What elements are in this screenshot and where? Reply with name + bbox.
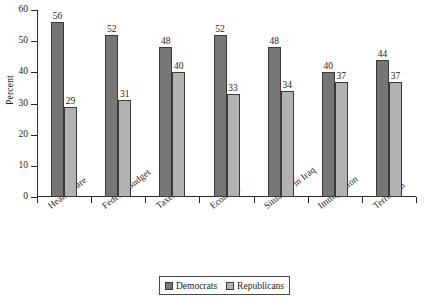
x-axis-tick bbox=[199, 197, 200, 203]
y-axis-tick-label: 60 bbox=[10, 5, 28, 14]
bar-value-label: 31 bbox=[116, 89, 134, 99]
x-axis-tick bbox=[91, 197, 92, 203]
bar-value-label: 48 bbox=[265, 36, 283, 46]
bar-value-label: 37 bbox=[332, 71, 350, 81]
bar[interactable] bbox=[281, 91, 294, 197]
bar[interactable] bbox=[322, 72, 335, 197]
x-axis-tick bbox=[308, 197, 309, 203]
bar-value-label: 34 bbox=[278, 80, 296, 90]
bar-value-label: 52 bbox=[211, 24, 229, 34]
y-axis-tick-label: 50 bbox=[10, 36, 28, 45]
x-axis-tick bbox=[254, 197, 255, 203]
bar-value-label: 29 bbox=[62, 96, 80, 106]
legend: Democrats Republicans bbox=[159, 276, 290, 295]
bar[interactable] bbox=[389, 82, 402, 197]
bar-value-label: 52 bbox=[103, 24, 121, 34]
y-axis-tick-label: 20 bbox=[10, 130, 28, 139]
legend-swatch-icon-democrats bbox=[165, 282, 173, 290]
x-axis-tick bbox=[37, 197, 38, 203]
legend-swatch-icon-republicans bbox=[226, 282, 234, 290]
bar-value-label: 56 bbox=[49, 11, 67, 21]
x-axis-tick bbox=[362, 197, 363, 203]
bar-value-label: 37 bbox=[386, 71, 404, 81]
bar-value-label: 48 bbox=[157, 36, 175, 46]
legend-label-democrats: Democrats bbox=[176, 281, 217, 291]
bar[interactable] bbox=[118, 100, 131, 197]
bar-value-label: 33 bbox=[224, 83, 242, 93]
bar-chart: Percent 0102030405060 Health CareFederal… bbox=[0, 0, 424, 307]
bar[interactable] bbox=[335, 82, 348, 197]
y-axis-tick-label: 40 bbox=[10, 67, 28, 76]
y-axis-tick-label: 0 bbox=[10, 192, 28, 201]
bar[interactable] bbox=[227, 94, 240, 197]
bar[interactable] bbox=[268, 47, 281, 197]
plot-area: 5629523148405233483440374437 bbox=[37, 10, 416, 197]
y-axis-tick-label: 30 bbox=[10, 99, 28, 108]
x-axis-tick bbox=[416, 197, 417, 203]
bar[interactable] bbox=[105, 35, 118, 197]
bar[interactable] bbox=[172, 72, 185, 197]
bar[interactable] bbox=[214, 35, 227, 197]
bar-value-label: 40 bbox=[170, 61, 188, 71]
bar[interactable] bbox=[64, 107, 77, 197]
legend-entry-republicans[interactable]: Republicans bbox=[226, 281, 284, 291]
bar[interactable] bbox=[51, 22, 64, 197]
legend-label-republicans: Republicans bbox=[237, 281, 284, 291]
y-axis-tick-label: 10 bbox=[10, 161, 28, 170]
legend-entry-democrats[interactable]: Democrats bbox=[165, 281, 217, 291]
x-axis-tick bbox=[145, 197, 146, 203]
bar-value-label: 44 bbox=[373, 49, 391, 59]
